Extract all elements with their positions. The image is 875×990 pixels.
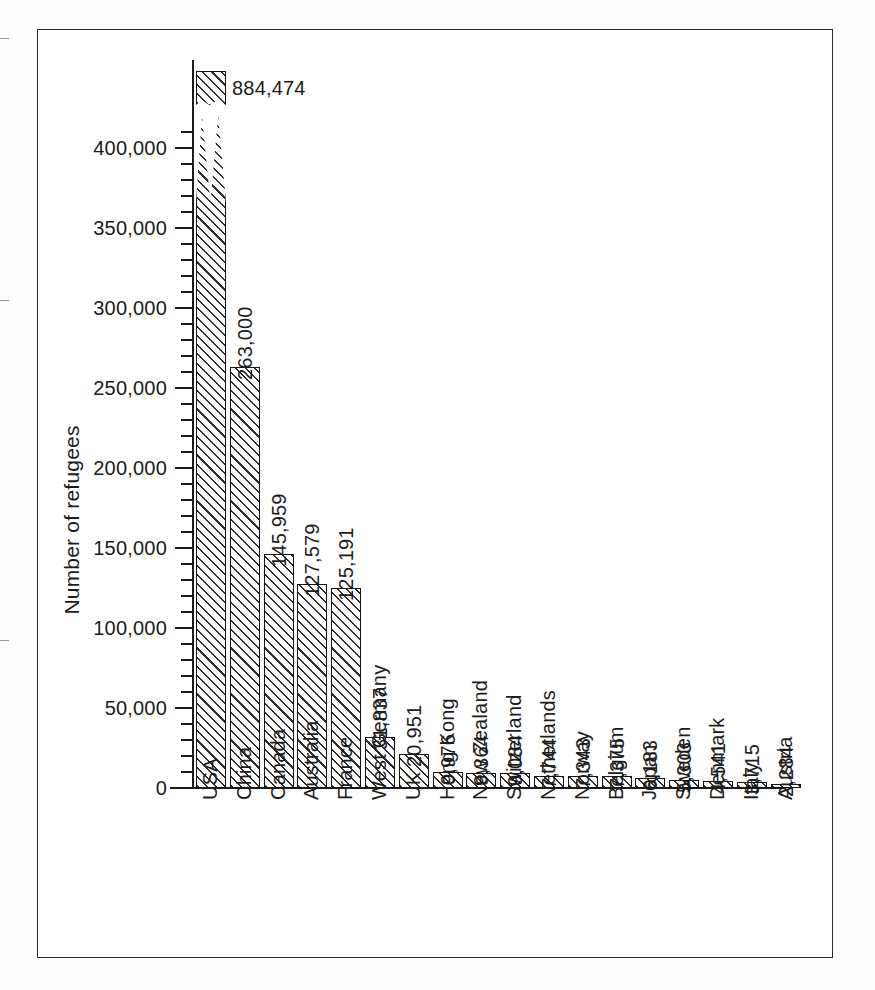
y-tick-minor <box>181 499 192 500</box>
y-tick-label: 300,000 <box>93 298 167 318</box>
y-tick-major <box>175 387 192 389</box>
y-tick-major <box>175 227 192 229</box>
x-category-label: Japan <box>639 745 659 801</box>
x-category-label: Switzerland <box>504 694 524 800</box>
y-tick-minor <box>181 531 192 532</box>
y-tick-minor <box>181 371 192 372</box>
y-tick-major <box>175 627 192 629</box>
x-category-label: UK <box>403 772 423 800</box>
y-tick-minor <box>181 483 192 484</box>
y-tick-minor <box>181 691 192 692</box>
y-tick-label: 50,000 <box>105 698 167 718</box>
bar-value-label: 125,191 <box>336 527 356 601</box>
y-tick-minor <box>181 259 192 260</box>
x-category-label: Denmark <box>707 717 727 800</box>
y-axis-line <box>192 60 194 788</box>
x-category-label: China <box>234 747 254 800</box>
chart-page: Number of refugees 050,000100,000150,000… <box>0 0 875 990</box>
y-tick-minor <box>181 403 192 404</box>
y-tick-label: 0 <box>156 778 167 798</box>
y-tick-minor <box>181 179 192 180</box>
x-category-label: New Zealand <box>470 680 490 800</box>
y-axis-title: Number of refugees <box>60 425 84 614</box>
y-tick-minor <box>181 515 192 516</box>
y-tick-minor <box>181 419 192 420</box>
y-tick-minor <box>181 451 192 452</box>
y-tick-minor <box>181 675 192 676</box>
bar-value-label: 263,000 <box>235 306 255 380</box>
x-category-label: Netherlands <box>538 690 558 800</box>
y-tick-minor <box>181 275 192 276</box>
y-tick-minor <box>181 195 192 196</box>
y-tick-minor <box>181 723 192 724</box>
y-tick-major <box>175 467 192 469</box>
bar-value-label: 127,579 <box>302 523 322 597</box>
x-category-label: USA <box>200 758 220 800</box>
y-tick-minor <box>181 755 192 756</box>
y-tick-major <box>175 707 192 709</box>
y-tick-label: 150,000 <box>93 538 167 558</box>
bar-value-label: 145,959 <box>269 494 289 568</box>
y-tick-major <box>175 307 192 309</box>
bar-value-label: 884,474 <box>232 78 306 98</box>
x-category-label: Norway <box>572 731 592 800</box>
y-tick-label: 250,000 <box>93 378 167 398</box>
y-tick-minor <box>181 243 192 244</box>
x-category-label: West Germany <box>369 665 389 800</box>
y-tick-label: 400,000 <box>93 138 167 158</box>
y-tick-major <box>175 787 192 789</box>
y-tick-minor <box>181 643 192 644</box>
bar-chart: Number of refugees 050,000100,000150,000… <box>0 0 875 990</box>
x-category-label: Belgium <box>606 726 626 800</box>
y-tick-minor <box>181 611 192 612</box>
bar-value-label: 20,951 <box>404 705 424 767</box>
y-tick-minor <box>181 659 192 660</box>
y-tick-minor <box>181 131 192 132</box>
y-tick-minor <box>181 291 192 292</box>
y-tick-minor <box>181 355 192 356</box>
x-category-label: France <box>335 737 355 800</box>
y-tick-minor <box>181 595 192 596</box>
bar-broken-cap <box>196 71 226 105</box>
x-category-label: Canada <box>268 729 288 800</box>
y-tick-major <box>175 147 192 149</box>
y-tick-minor <box>181 771 192 772</box>
y-tick-label: 200,000 <box>93 458 167 478</box>
y-tick-major <box>175 547 192 549</box>
bar <box>230 367 260 788</box>
y-tick-minor <box>181 739 192 740</box>
x-category-label: Sweden <box>673 727 693 800</box>
x-category-label: Italy <box>741 762 761 800</box>
y-tick-minor <box>181 323 192 324</box>
y-tick-label: 100,000 <box>93 618 167 638</box>
bar <box>196 115 226 788</box>
x-category-label: Austria <box>775 736 795 800</box>
y-tick-minor <box>181 211 192 212</box>
y-tick-minor <box>181 435 192 436</box>
y-tick-minor <box>181 339 192 340</box>
x-category-label: Australia <box>301 720 321 800</box>
y-tick-minor <box>181 163 192 164</box>
y-tick-minor <box>181 579 192 580</box>
y-tick-label: 350,000 <box>93 218 167 238</box>
y-tick-minor <box>181 563 192 564</box>
x-category-label: Hong Kong <box>437 698 457 800</box>
